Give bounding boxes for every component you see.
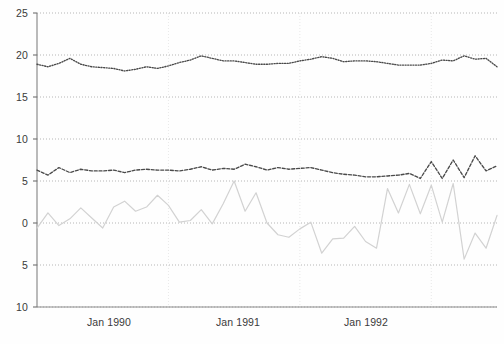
y-tick-label-10: 10 bbox=[2, 134, 28, 145]
y-tick-label-20: 20 bbox=[2, 50, 28, 61]
chart-canvas bbox=[0, 0, 504, 344]
data-series-group bbox=[37, 56, 497, 259]
series-line-lower-series bbox=[37, 181, 497, 259]
x-tick-label-jan-1990: Jan 1990 bbox=[66, 317, 152, 328]
figure-caption bbox=[20, 336, 490, 344]
y-tick-label-neg10: 10 bbox=[2, 302, 28, 313]
figure-container: 25 20 15 10 5 0 5 10 Jan 1990 Jan 1991 J… bbox=[0, 0, 504, 344]
gridlines-group bbox=[37, 13, 497, 307]
y-tick-label-neg5: 5 bbox=[2, 260, 28, 271]
series-line-middle-series bbox=[37, 156, 497, 179]
y-tick-label-5: 5 bbox=[2, 176, 28, 187]
x-tick-label-jan-1992: Jan 1992 bbox=[323, 317, 409, 328]
series-line-upper-series bbox=[37, 56, 497, 71]
y-tick-label-15: 15 bbox=[2, 92, 28, 103]
y-tick-label-0: 0 bbox=[2, 218, 28, 229]
y-tick-label-25: 25 bbox=[2, 8, 28, 19]
x-tick-label-jan-1991: Jan 1991 bbox=[195, 317, 281, 328]
